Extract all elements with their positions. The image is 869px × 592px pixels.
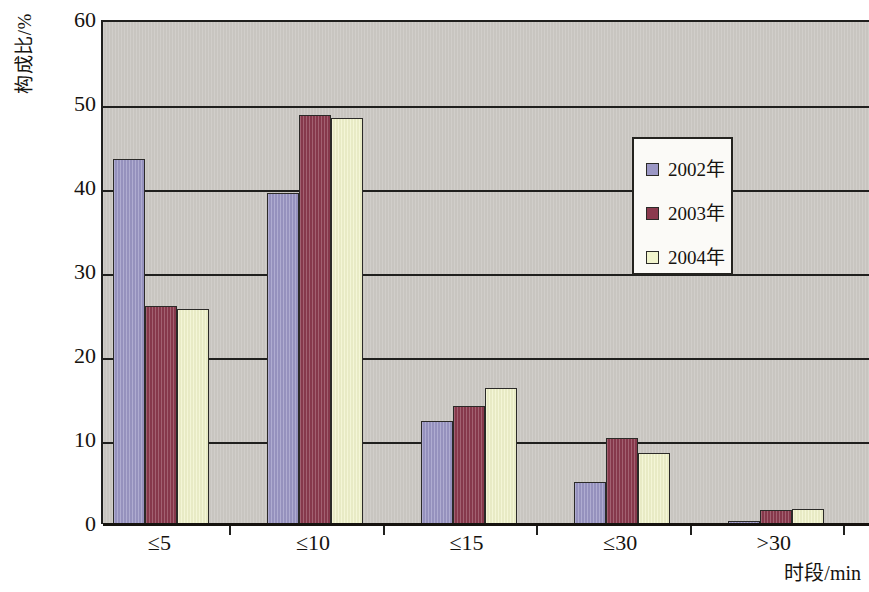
y-axis-tick-labels: 0102030405060 (34, 0, 96, 592)
bar-texture (422, 422, 452, 523)
bar-2004年-≤30 (638, 453, 670, 524)
plot-area (101, 20, 869, 524)
bar-group (267, 22, 363, 524)
bar-groups (103, 22, 869, 524)
legend-item: 2004年 (646, 247, 725, 267)
bar-texture (146, 307, 176, 523)
bar-texture (268, 194, 298, 523)
bar-texture (761, 511, 791, 523)
bar-2002年-≤15 (421, 421, 453, 524)
bar-2003年-≤10 (299, 115, 331, 524)
bar-texture (639, 454, 669, 523)
y-tick-label: 10 (74, 429, 96, 451)
bar-2004年-≤5 (177, 309, 209, 524)
legend-label: 2002年 (668, 160, 725, 179)
x-tick-label: ≤5 (148, 530, 171, 556)
y-tick-label: 50 (74, 93, 96, 115)
legend-item: 2002年 (646, 159, 725, 179)
bar-group (728, 22, 824, 524)
bar-texture (114, 160, 144, 523)
bar-2003年->30 (760, 510, 792, 524)
y-tick-label: 0 (85, 513, 96, 535)
x-axis-title: 时段/min (784, 557, 861, 586)
bar-group (113, 22, 209, 524)
legend-swatch-icon (646, 207, 659, 220)
bar-texture (454, 407, 484, 523)
bar-texture (793, 510, 823, 523)
y-tick-label: 60 (74, 9, 96, 31)
bar-2004年-≤15 (485, 388, 517, 524)
bar-chart: 构成比/% 0102030405060 ≤5≤10≤15≤30>30 时段/mi… (0, 0, 869, 592)
y-tick-label: 20 (74, 345, 96, 367)
legend-swatch-icon (646, 251, 659, 264)
bar-texture (486, 389, 516, 523)
bar-2004年-≤10 (331, 118, 363, 524)
y-tick-label: 40 (74, 177, 96, 199)
bar-2003年-≤15 (453, 406, 485, 524)
x-tick-label: ≤30 (603, 530, 637, 556)
y-axis-title: 构成比/% (9, 0, 36, 114)
bar-texture (178, 310, 208, 523)
bar-2003年-≤30 (606, 438, 638, 524)
legend-label: 2003年 (668, 204, 725, 223)
bar-texture (607, 439, 637, 523)
y-tick-label: 30 (74, 261, 96, 283)
legend: 2002年2003年2004年 (632, 137, 733, 275)
legend-swatch-icon (646, 163, 659, 176)
bar-2004年->30 (792, 509, 824, 524)
bar-2002年-≤30 (574, 482, 606, 524)
legend-item: 2003年 (646, 203, 725, 223)
bar-texture (575, 483, 605, 523)
x-axis-tick-labels: ≤5≤10≤15≤30>30 (101, 530, 869, 570)
x-tick-label: ≤10 (296, 530, 330, 556)
x-tick-label: ≤15 (450, 530, 484, 556)
x-axis-line (103, 523, 869, 526)
bar-2002年-≤10 (267, 193, 299, 524)
bar-texture (332, 119, 362, 523)
bar-texture (300, 116, 330, 523)
x-tick-label: >30 (757, 530, 791, 556)
bar-group (421, 22, 517, 524)
legend-label: 2004年 (668, 248, 725, 267)
bar-2002年-≤5 (113, 159, 145, 524)
bar-2003年-≤5 (145, 306, 177, 524)
